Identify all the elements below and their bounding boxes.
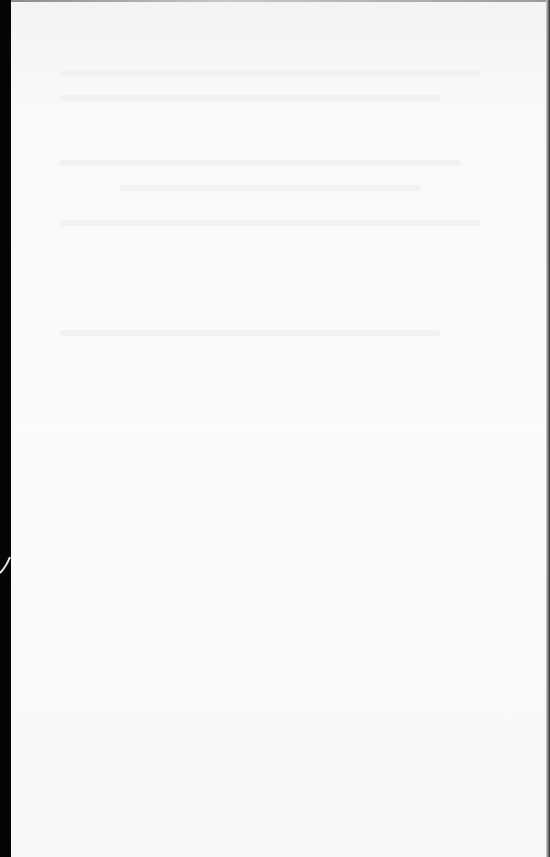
paper-curl-icon [0, 555, 12, 575]
blank-page [11, 2, 546, 857]
bleed-through-line [120, 185, 420, 191]
bleed-through-line [60, 220, 480, 226]
bleed-through-line [60, 95, 440, 101]
bleed-through-line [60, 330, 440, 336]
bleed-through-line [60, 70, 480, 76]
bleed-through-line [60, 160, 460, 166]
scan-right-edge [546, 0, 550, 857]
scan-left-border [0, 0, 11, 857]
